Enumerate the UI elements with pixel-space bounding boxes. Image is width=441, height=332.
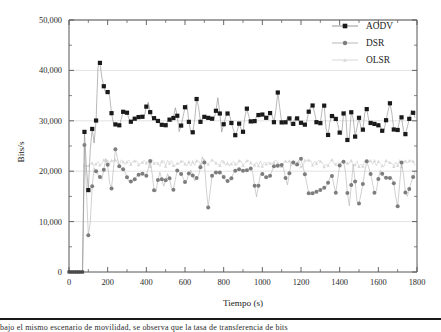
data-point-marker: [407, 187, 411, 191]
throughput-line-chart: 010,00020,00030,00040,00050,000 02004006…: [0, 0, 441, 318]
data-point-marker: [140, 115, 144, 119]
data-point-marker: [237, 122, 241, 126]
data-point-marker: [373, 159, 376, 162]
data-point-marker: [396, 128, 400, 132]
data-point-marker: [314, 120, 318, 124]
data-point-marker: [110, 186, 114, 190]
data-point-marker: [349, 110, 353, 114]
data-point-marker: [94, 118, 98, 122]
data-point-marker: [376, 177, 380, 181]
data-point-marker: [283, 120, 287, 124]
data-point-marker: [311, 103, 315, 107]
data-point-marker: [218, 171, 222, 175]
data-point-marker: [357, 202, 361, 206]
data-point-marker: [156, 178, 160, 182]
data-point-marker: [168, 176, 172, 180]
data-point-marker: [183, 105, 187, 109]
data-point-marker: [191, 173, 195, 177]
data-point-marker: [202, 115, 206, 119]
data-point-marker: [202, 160, 206, 164]
data-point-marker: [353, 163, 356, 166]
data-point-marker: [102, 168, 106, 172]
data-point-marker: [206, 116, 210, 120]
data-point-marker: [102, 84, 106, 88]
data-point-marker: [98, 61, 102, 65]
data-point-marker: [407, 117, 411, 121]
data-point-marker: [222, 175, 226, 179]
data-point-marker: [106, 90, 110, 94]
legend-label-aodv: AODV: [366, 21, 393, 31]
data-point-marker: [350, 159, 353, 162]
data-point-marker: [237, 167, 241, 171]
data-point-marker: [160, 177, 164, 181]
data-point-marker: [164, 123, 168, 127]
data-point-marker: [175, 114, 179, 118]
y-tick-label: 50,000: [39, 16, 62, 25]
data-point-marker: [171, 188, 175, 192]
data-point-marker: [307, 110, 311, 114]
data-point-marker: [214, 170, 218, 174]
data-point-marker: [369, 121, 373, 125]
data-point-marker: [171, 116, 175, 120]
data-point-marker: [295, 163, 299, 167]
data-point-marker: [218, 164, 221, 167]
data-point-marker: [369, 172, 373, 176]
data-point-marker: [144, 105, 148, 109]
series-line-olsr: [69, 160, 415, 272]
data-point-marker: [195, 97, 199, 101]
series-line-dsr: [69, 145, 415, 272]
data-point-marker: [82, 130, 86, 134]
data-point-marker: [191, 130, 195, 134]
data-point-marker: [404, 159, 407, 162]
data-point-marker: [137, 115, 141, 119]
data-point-marker: [330, 158, 333, 161]
data-point-marker: [90, 127, 94, 131]
data-point-marker: [377, 160, 380, 163]
data-point-marker: [198, 120, 202, 124]
data-point-marker: [376, 123, 380, 127]
data-point-marker: [109, 111, 113, 115]
data-point-marker: [233, 169, 237, 173]
data-point-marker: [291, 160, 295, 164]
data-point-marker: [81, 270, 84, 273]
data-point-marker: [411, 175, 415, 179]
data-point-marker: [280, 120, 284, 124]
data-point-marker: [400, 161, 404, 165]
y-axis-title: Bits/s: [16, 141, 26, 162]
y-tick-label: 30,000: [39, 117, 62, 126]
data-point-marker: [160, 123, 164, 127]
data-point-marker: [187, 160, 190, 163]
horizontal-rule: [0, 318, 441, 320]
y-tick-label: 20,000: [39, 167, 62, 176]
data-point-marker: [198, 165, 202, 169]
data-point-marker: [210, 174, 214, 178]
data-point-marker: [396, 164, 399, 167]
data-point-marker: [318, 121, 322, 125]
data-point-marker: [392, 181, 396, 185]
data-point-marker: [342, 160, 346, 164]
data-point-marker: [179, 172, 183, 176]
data-point-marker: [249, 119, 253, 123]
data-point-marker: [334, 191, 338, 195]
data-point-marker: [117, 164, 121, 168]
data-point-marker: [295, 116, 299, 120]
data-point-marker: [148, 110, 152, 114]
data-point-marker: [125, 175, 129, 179]
data-point-marker: [129, 180, 133, 184]
x-tick-label: 1400: [331, 278, 348, 287]
y-tick-label: 40,000: [39, 66, 62, 75]
data-point-marker: [330, 114, 334, 118]
x-tick-label: 1200: [293, 278, 310, 287]
data-point-marker: [167, 118, 171, 122]
x-axis-ticks: [69, 20, 417, 272]
data-point-marker: [144, 174, 148, 178]
data-point-marker: [403, 132, 407, 136]
data-point-marker: [288, 159, 291, 162]
data-point-marker: [276, 90, 280, 94]
data-point-marker: [365, 159, 369, 163]
data-point-marker: [86, 233, 90, 237]
x-axis-tick-labels: 020040060080010001200140016001800: [67, 278, 425, 287]
x-tick-label: 200: [101, 278, 114, 287]
data-point-marker: [322, 104, 326, 108]
series-dsr: [69, 143, 415, 272]
